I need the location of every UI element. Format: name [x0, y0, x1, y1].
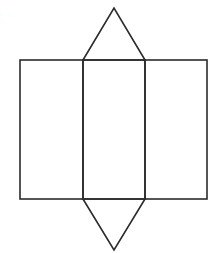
- bottom-triangle-face: [83, 199, 145, 250]
- top-triangle-face: [83, 8, 145, 60]
- left-rectangle-face: [20, 60, 83, 199]
- triangular-prism-net: [0, 0, 209, 253]
- right-rectangle-face: [145, 60, 207, 199]
- middle-rectangle-face: [83, 60, 145, 199]
